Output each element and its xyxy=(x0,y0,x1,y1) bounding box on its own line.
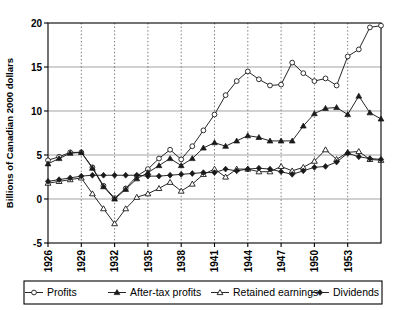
data-point xyxy=(112,172,117,178)
data-point xyxy=(334,105,340,110)
data-point xyxy=(323,147,329,152)
data-point xyxy=(223,93,228,98)
data-point xyxy=(90,172,95,178)
data-point xyxy=(168,147,173,152)
data-point xyxy=(223,166,228,172)
data-point xyxy=(201,128,206,133)
data-point xyxy=(356,93,362,98)
data-point xyxy=(290,60,295,65)
data-point xyxy=(156,173,161,179)
data-point xyxy=(156,163,162,168)
data-point xyxy=(323,164,328,170)
x-tick-label: 1932 xyxy=(109,250,120,273)
x-axis: 1926192919321935193819411944194719501953 xyxy=(43,243,354,272)
y-tick-label: 10 xyxy=(31,106,43,117)
legend-label: Retained earnings xyxy=(233,286,318,298)
y-axis: -505101520 xyxy=(31,18,48,249)
data-point xyxy=(279,169,284,175)
data-point xyxy=(32,290,37,295)
x-tick-label: 1935 xyxy=(143,250,154,273)
data-point xyxy=(301,71,306,76)
x-tick-label: 1941 xyxy=(209,250,220,273)
data-point xyxy=(168,172,173,178)
data-point xyxy=(312,111,318,116)
x-tick-label: 1929 xyxy=(76,250,87,273)
x-tick-label: 1947 xyxy=(276,250,287,273)
y-axis-title: Billions of Canadian 2000 dollars xyxy=(4,58,15,208)
series-after-tax-profits xyxy=(45,93,384,201)
legend-label: Profits xyxy=(47,286,77,298)
data-point xyxy=(179,171,184,177)
data-point xyxy=(212,140,218,145)
data-point xyxy=(190,171,195,177)
x-tick-label: 1953 xyxy=(343,250,354,273)
data-point xyxy=(234,79,239,84)
x-tick-label: 1944 xyxy=(243,250,254,273)
data-point xyxy=(279,82,284,87)
legend: ProfitsAfter-tax profitsRetained earning… xyxy=(24,281,382,304)
legend-label: After-tax profits xyxy=(130,286,201,298)
data-point xyxy=(379,23,384,28)
data-point xyxy=(345,112,351,117)
data-point xyxy=(245,69,250,74)
y-tick-label: -5 xyxy=(33,238,42,249)
y-tick-label: 5 xyxy=(36,150,42,161)
x-tick-label: 1950 xyxy=(309,250,320,273)
data-point xyxy=(223,174,229,179)
data-point xyxy=(156,186,162,191)
data-point xyxy=(101,172,106,178)
y-tick-label: 0 xyxy=(36,194,42,205)
data-point xyxy=(145,191,151,196)
legend-label: Dividends xyxy=(333,286,379,298)
y-tick-label: 20 xyxy=(31,18,43,29)
data-point xyxy=(278,164,284,169)
data-point xyxy=(157,156,162,161)
data-point xyxy=(123,172,128,178)
series-line xyxy=(48,96,381,199)
data-point xyxy=(312,164,317,170)
data-point xyxy=(179,157,184,162)
data-point xyxy=(334,83,339,88)
data-point xyxy=(212,112,217,117)
data-point xyxy=(167,179,173,184)
x-tick-label: 1926 xyxy=(43,250,54,273)
data-point xyxy=(378,116,384,121)
data-point xyxy=(178,163,184,168)
data-point xyxy=(356,47,361,52)
data-point xyxy=(245,133,251,138)
data-point xyxy=(323,76,328,81)
data-point xyxy=(345,54,350,59)
data-point xyxy=(257,77,262,82)
data-point xyxy=(312,79,317,84)
data-point xyxy=(356,149,362,154)
gridlines xyxy=(48,23,381,243)
data-point xyxy=(256,165,261,171)
y-tick-label: 15 xyxy=(31,62,43,73)
data-point xyxy=(201,145,207,150)
profits-line-chart: -505101520Billions of Canadian 2000 doll… xyxy=(0,0,402,310)
x-tick-label: 1938 xyxy=(176,250,187,273)
data-point xyxy=(234,138,240,143)
data-point xyxy=(268,83,273,88)
chart-figure: -505101520Billions of Canadian 2000 doll… xyxy=(0,0,402,310)
data-point xyxy=(190,144,195,149)
data-point xyxy=(167,156,173,161)
data-point xyxy=(368,25,373,30)
